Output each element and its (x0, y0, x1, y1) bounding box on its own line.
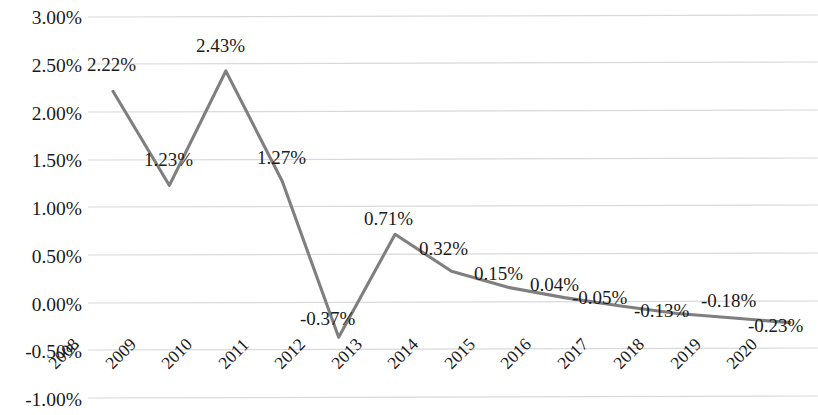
data-label-2010: 2.43% (196, 36, 245, 55)
data-label-2020: -0.23% (748, 316, 803, 335)
data-label-2014: 0.32% (419, 239, 468, 258)
data-label-2017: -0.05% (572, 288, 627, 307)
data-label-2009: 1.23% (144, 150, 193, 169)
data-label-2008: 2.22% (87, 55, 136, 74)
gridlines (88, 15, 818, 398)
data-label-2013: 0.71% (364, 209, 413, 228)
data-label-2019: -0.18% (701, 291, 756, 310)
data-label-2012: -0.37% (300, 309, 355, 328)
y-tick-label: 1.00% (0, 199, 82, 219)
data-label-2011: 1.27% (257, 148, 306, 167)
data-label-2018: -0.13% (634, 301, 689, 320)
y-tick-label: 3.00% (0, 8, 82, 28)
y-tick-label: -1.00% (0, 390, 82, 410)
y-tick-label: 2.00% (0, 104, 82, 124)
y-tick-label: 1.50% (0, 151, 82, 171)
data-label-2015: 0.15% (474, 264, 523, 283)
y-tick-label: 0.00% (0, 295, 82, 315)
line-chart: 3.00% 2.50% 2.00% 1.50% 1.00% 0.50% 0.00… (0, 0, 818, 415)
y-tick-label: 2.50% (0, 56, 82, 76)
y-tick-label: 0.50% (0, 247, 82, 267)
